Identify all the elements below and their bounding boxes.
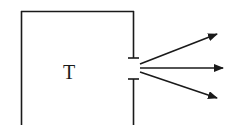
emission-arrows [140,34,223,98]
diagram-canvas: T [0,0,239,125]
arrow-down-right-icon [140,72,217,98]
container-box [21,11,139,125]
arrow-up-right-icon [140,34,217,64]
box-label: T [63,61,75,83]
